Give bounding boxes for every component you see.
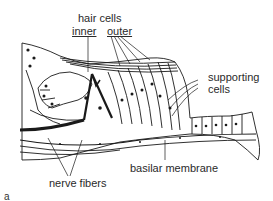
- cells-label: cells: [208, 84, 230, 95]
- outer-label: outer: [107, 26, 132, 37]
- basilar-membrane-label: basilar membrane: [130, 163, 218, 174]
- hair-cells-label: hair cells: [78, 13, 121, 24]
- tunnel-of-corti: [84, 74, 112, 120]
- supporting-leader: [168, 80, 198, 116]
- figure-mark: a: [4, 191, 10, 201]
- supporting-label: supporting: [208, 72, 259, 83]
- nerve-fibers-label: nerve fibers: [49, 178, 106, 189]
- inner-label: inner: [72, 26, 96, 37]
